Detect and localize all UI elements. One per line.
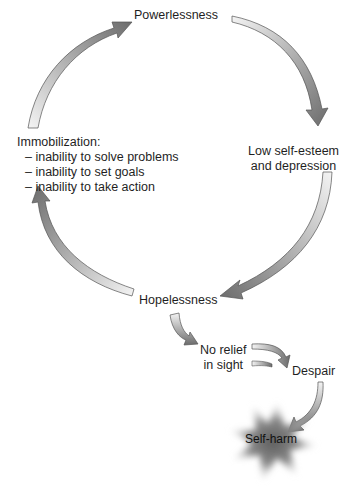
node-despair: Despair bbox=[292, 364, 335, 379]
immobilization-item: – inability to take action bbox=[17, 180, 179, 195]
node-no-relief-line1: No relief bbox=[200, 343, 247, 358]
node-low-self-esteem-line2: and depression bbox=[248, 159, 339, 174]
node-immobilization: Immobilization: – inability to solve pro… bbox=[17, 135, 179, 195]
arrow-no-relief-to-despair bbox=[252, 344, 290, 368]
node-no-relief-line2: in sight bbox=[200, 358, 247, 373]
arrow-immobilization-to-powerlessness bbox=[28, 22, 132, 128]
immobilization-heading: Immobilization: bbox=[17, 135, 179, 150]
node-low-self-esteem: Low self-esteem and depression bbox=[248, 144, 339, 174]
node-self-harm: Self-harm bbox=[245, 432, 297, 447]
arrow-hopelessness-to-no-relief bbox=[170, 313, 198, 345]
node-hopelessness: Hopelessness bbox=[139, 293, 218, 308]
arrow-low-self-esteem-to-hopelessness bbox=[220, 172, 332, 299]
immobilization-item: – inability to set goals bbox=[17, 165, 179, 180]
arrow-hopelessness-to-immobilization bbox=[32, 186, 134, 296]
node-low-self-esteem-line1: Low self-esteem bbox=[248, 144, 339, 159]
arrow-powerlessness-to-low-self-esteem bbox=[232, 16, 328, 126]
immobilization-item: – inability to solve problems bbox=[17, 150, 179, 165]
cycle-diagram bbox=[0, 0, 350, 493]
node-no-relief: No relief in sight bbox=[200, 343, 247, 373]
node-powerlessness: Powerlessness bbox=[134, 8, 218, 23]
